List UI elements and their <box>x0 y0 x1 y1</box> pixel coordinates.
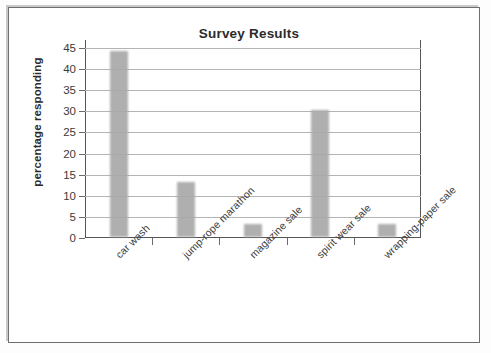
y-axis-tick <box>79 69 85 70</box>
gridline <box>85 132 421 133</box>
y-axis-tick <box>79 175 85 176</box>
y-axis-tick <box>79 196 85 197</box>
chart-figure-frame: Survey Results percentage responding 051… <box>8 7 480 343</box>
y-axis-tick-label: 40 <box>63 63 76 75</box>
x-axis-tick <box>354 238 355 245</box>
y-axis-tick <box>79 111 85 112</box>
y-axis-tick-label: 5 <box>70 211 76 223</box>
y-axis-tick <box>79 132 85 133</box>
y-axis-tick-label: 45 <box>63 42 76 54</box>
y-axis-tick <box>79 154 85 155</box>
gridline <box>85 217 421 218</box>
bar[interactable] <box>110 51 128 237</box>
y-axis-tick <box>79 90 85 91</box>
bar[interactable] <box>244 224 262 237</box>
gridline <box>85 111 421 112</box>
plot-area: 051015202530354045 car washjump-rope mar… <box>85 48 421 238</box>
y-axis-tick-label: 20 <box>63 148 76 160</box>
y-axis-tick-label: 10 <box>63 190 76 202</box>
y-axis-tick <box>79 48 85 49</box>
y-axis-title: percentage responding <box>31 32 43 212</box>
y-axis-tick-label: 30 <box>63 105 76 117</box>
gridline <box>85 154 421 155</box>
y-axis-tick <box>79 217 85 218</box>
y-axis-tick <box>79 238 85 239</box>
gridline <box>85 90 421 91</box>
gridline <box>85 175 421 176</box>
x-axis-tick <box>152 238 153 245</box>
y-axis-tick-label: 0 <box>70 232 76 244</box>
scanned-page: Survey Results percentage responding 051… <box>0 0 491 353</box>
gridline <box>85 48 421 49</box>
bar[interactable] <box>177 182 195 237</box>
gridline <box>85 69 421 70</box>
y-axis-tick-label: 15 <box>63 169 76 181</box>
y-axis-tick-label: 35 <box>63 84 76 96</box>
bar[interactable] <box>311 110 329 237</box>
chart-title: Survey Results <box>69 26 429 41</box>
x-axis-tick <box>219 238 220 245</box>
bar[interactable] <box>378 224 396 237</box>
y-axis-tick-label: 25 <box>63 126 76 138</box>
x-axis-tick <box>287 238 288 245</box>
